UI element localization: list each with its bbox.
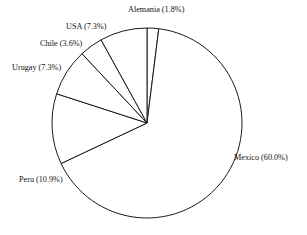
pie-label-chile: Chile (3.6%) (40, 39, 83, 48)
pie-chart: Alemania (1.8%)Mexico (60.0%)Peru (10.9%… (0, 0, 307, 235)
pie-label-peru: Peru (10.9%) (19, 175, 63, 184)
pie-chart-page: Alemania (1.8%)Mexico (60.0%)Peru (10.9%… (0, 0, 307, 235)
pie-label-usa: USA (7.3%) (66, 22, 107, 31)
pie-label-urugay: Urugay (7.3%) (12, 63, 61, 72)
pie-label-mexico: Mexico (60.0%) (234, 153, 288, 162)
pie-slices-group (52, 28, 242, 218)
pie-label-alemania: Alemania (1.8%) (128, 5, 185, 14)
